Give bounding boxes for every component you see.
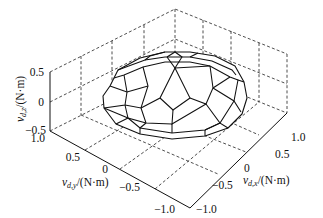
x-tick-0.5: 0.5: [275, 148, 290, 160]
x-tick-1.0: 1.0: [291, 131, 306, 143]
x-axis-label: vd,x/(N·m): [243, 174, 290, 188]
y-tick-0.5: 0.5: [66, 151, 81, 163]
z-axis-ticks: 0.5 0 −0.5: [25, 66, 46, 136]
x-axis-ticks: −1.0 −0.5 0 0.5 1.0: [196, 131, 306, 215]
3d-surface-plot: 0.5 0 −0.5 1.0 0.5 0 −0.5 −1.0 −1.0 −0.5…: [0, 0, 323, 218]
z-tick-0.5: 0.5: [30, 66, 45, 78]
z-tick-0: 0: [38, 96, 44, 108]
y-axis-label: vd,y/(N·m): [62, 176, 109, 190]
x-tick-neg1.0: −1.0: [196, 203, 217, 215]
y-axis-line: [50, 131, 190, 208]
z-axis-label: vd,z/(N·m): [14, 76, 28, 122]
y-tick-neg0.5: −0.5: [119, 181, 140, 193]
y-tick-0: 0: [102, 163, 108, 175]
y-axis-ticks: 1.0 0.5 0 −0.5 −1.0: [31, 132, 176, 215]
y-tick-neg1.0: −1.0: [154, 203, 175, 215]
y-tick-1.0: 1.0: [31, 132, 46, 144]
x-tick-0: 0: [244, 162, 250, 174]
x-tick-neg0.5: −0.5: [212, 179, 233, 191]
ellipsoid-surface: [103, 52, 247, 139]
